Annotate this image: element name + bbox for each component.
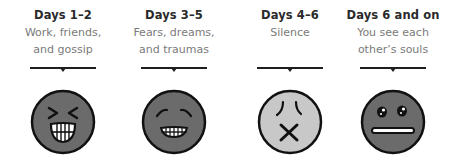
arrow-down-icon — [287, 68, 293, 72]
divider-line — [360, 67, 426, 69]
stage-days-3-5: Days 3–5 Fears, dreams, and traumas — [116, 0, 232, 166]
stage-description: Silence — [232, 24, 348, 41]
arrow-down-icon — [390, 68, 396, 72]
stage-days-1-2: Days 1–2 Work, friends, and gossip — [5, 0, 121, 166]
arrow-down-icon — [60, 68, 66, 72]
neutral-staring-face-icon — [360, 89, 426, 155]
relieved-grin-face-icon — [141, 89, 207, 155]
stage-description: You see each other’s souls — [335, 24, 451, 58]
divider-line — [257, 67, 323, 69]
divider-line — [141, 67, 207, 69]
stage-days-4-6: Days 4–6 Silence — [232, 0, 348, 166]
divider-line — [30, 67, 96, 69]
laughing-face-icon — [30, 89, 96, 155]
stage-description: Work, friends, and gossip — [5, 24, 121, 58]
stage-title: Days 4–6 — [232, 8, 348, 22]
stage-title: Days 1–2 — [5, 8, 121, 22]
stage-title: Days 3–5 — [116, 8, 232, 22]
stage-title: Days 6 and on — [335, 8, 451, 22]
dizzy-silent-face-icon — [257, 89, 323, 155]
stage-days-6-and-on: Days 6 and on You see each other’s souls — [335, 0, 451, 166]
arrow-down-icon — [171, 68, 177, 72]
stage-description: Fears, dreams, and traumas — [116, 24, 232, 58]
